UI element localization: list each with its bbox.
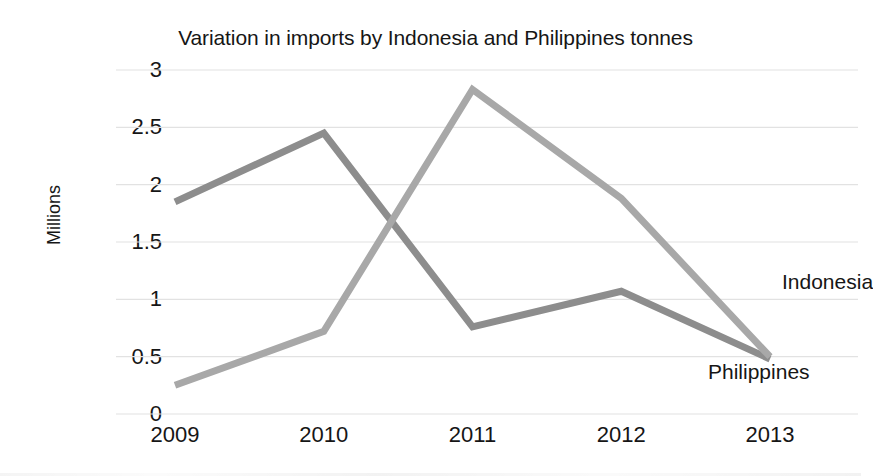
series-label-indonesia: Indonesia (782, 271, 873, 292)
series-line-indonesia (175, 133, 770, 359)
x-axis-tick-label: 2010 (264, 424, 384, 446)
x-axis-tick-label: 2013 (710, 424, 830, 446)
series-lines (175, 90, 770, 386)
series-label-philippines: Philippines (708, 361, 810, 382)
x-axis-tick-label: 2009 (115, 424, 235, 446)
x-axis-tick-label: 2012 (561, 424, 681, 446)
series-line-philippines (175, 90, 770, 386)
x-axis-tick-label: 2011 (413, 424, 533, 446)
